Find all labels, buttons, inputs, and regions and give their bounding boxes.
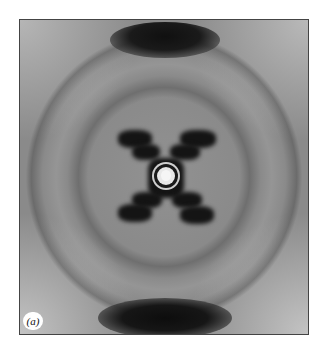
top-meridional-arc <box>110 22 220 58</box>
central-beam-stop <box>157 167 175 185</box>
bottom-meridional-arc <box>98 298 232 335</box>
x-arm-lower-left-outer <box>118 204 152 222</box>
x-arm-lower-right-outer <box>180 206 214 224</box>
diffraction-image: (a) <box>19 19 309 335</box>
panel-label: (a) <box>23 312 43 330</box>
